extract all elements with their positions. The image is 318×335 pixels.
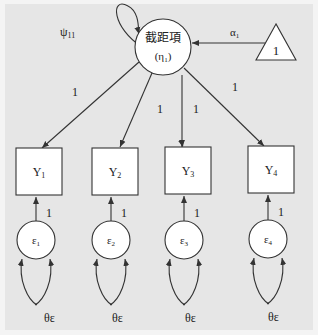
error-variance-loop-1: [21, 259, 37, 305]
loading-path-3-guide: [163, 75, 183, 147]
psi-label: ψ11: [60, 25, 75, 40]
error-variance-label-4: θε: [268, 310, 279, 324]
loading-label-2: 1: [157, 102, 163, 116]
latent-symbol: (η1): [155, 50, 172, 64]
loading-path-1: [42, 62, 139, 148]
loading-label-3: 1: [193, 102, 199, 116]
error-path-label-1: 1: [46, 206, 52, 220]
observed-y2: Y2: [92, 148, 138, 195]
error-e4: ε4: [249, 220, 287, 258]
error-variance-loop-3: [169, 259, 185, 305]
loading-label-1: 1: [72, 85, 78, 99]
error-variance-label-1: θε: [44, 311, 55, 325]
latent-variance-loop-start: [120, 6, 139, 36]
loading-label-4: 1: [232, 80, 238, 94]
path-diagram: ψ11 截距項 (η1) 1 α1 1 1 1 1 Y1 Y2 Y3 Y4 1 …: [0, 0, 318, 335]
observed-y1: Y1: [16, 148, 62, 195]
error-e1: ε1: [17, 221, 55, 259]
latent-intercept-node: [135, 19, 191, 75]
error-e2: ε2: [92, 221, 130, 259]
error-e3: ε3: [165, 221, 203, 259]
observed-y4: Y4: [248, 146, 294, 193]
constant-label: 1: [273, 43, 280, 58]
latent-label: 截距項: [145, 31, 181, 45]
observed-y3: Y3: [165, 147, 211, 194]
alpha-label: α1: [230, 26, 240, 40]
error-path-label-4: 1: [278, 205, 284, 219]
loading-path-2: [120, 73, 152, 147]
error-variance-loop-2: [96, 259, 112, 305]
error-variance-label-3: θε: [185, 311, 196, 325]
error-variance-loop-4: [253, 258, 269, 304]
error-path-label-3: 1: [194, 206, 200, 220]
error-variance-label-2: θε: [112, 311, 123, 325]
error-path-label-2: 1: [121, 206, 127, 220]
